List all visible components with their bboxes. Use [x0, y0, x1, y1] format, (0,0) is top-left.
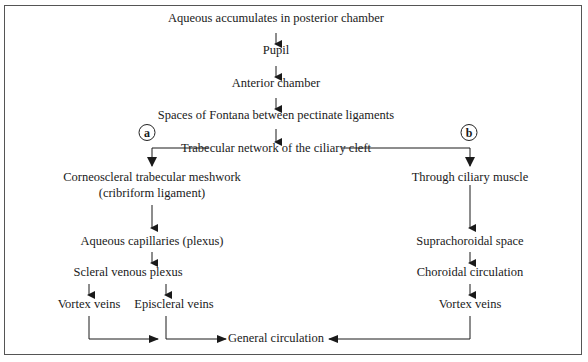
- node-episcleral-veins: Episcleral veins: [134, 297, 214, 311]
- node-vortex-veins-left: Vortex veins: [58, 297, 121, 311]
- node-corneoscleral-meshwork: Corneoscleral trabecular meshwork: [63, 170, 241, 184]
- node-posterior-chamber: Aqueous accumulates in posterior chamber: [168, 11, 384, 25]
- arrow-episcleral-general: [166, 316, 226, 339]
- route-b-badge: b: [461, 124, 478, 141]
- arrow-vortex-right-general: [329, 316, 470, 339]
- node-cribriform-ligament: (cribriform ligament): [99, 186, 206, 200]
- node-aqueous-capillaries: Aqueous capillaries (plexus): [80, 234, 223, 248]
- node-choroidal-circulation: Choroidal circulation: [417, 265, 524, 279]
- node-spaces-of-fontana: Spaces of Fontana between pectinate liga…: [158, 108, 394, 122]
- route-a-badge: a: [139, 124, 156, 141]
- node-vortex-veins-right: Vortex veins: [439, 297, 502, 311]
- node-trabecular-network: Trabecular network of the ciliary cleft: [181, 141, 371, 155]
- node-ciliary-muscle: Through ciliary muscle: [412, 170, 529, 184]
- node-suprachoroidal-space: Suprachoroidal space: [416, 234, 523, 248]
- node-pupil: Pupil: [263, 43, 289, 57]
- node-general-circulation: General circulation: [228, 331, 324, 345]
- arrow-vortex-general: [89, 316, 158, 339]
- node-anterior-chamber: Anterior chamber: [232, 76, 321, 90]
- flow-diagram: Aqueous accumulates in posterior chamber…: [0, 0, 588, 362]
- node-scleral-venous-plexus: Scleral venous plexus: [73, 265, 182, 279]
